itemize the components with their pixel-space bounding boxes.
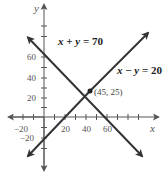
line-x-plus-y-70-start xyxy=(28,38,42,53)
tick-y-20: 20 xyxy=(27,93,37,103)
intersection-point xyxy=(88,89,93,94)
line-x-minus-y-20-start xyxy=(28,91,90,156)
equation-x-minus-y-20: x − y = 20 xyxy=(116,64,162,76)
tick-y-60: 60 xyxy=(27,52,37,62)
x-axis-label: x xyxy=(149,122,155,134)
tick-x-60: 60 xyxy=(103,124,113,134)
tick-x-40: 40 xyxy=(82,124,92,134)
intersection-label: (45, 25) xyxy=(94,87,123,97)
y-axis-label: y xyxy=(33,2,39,14)
equation-x-plus-y-70: x + y = 70 xyxy=(57,35,103,47)
tick-y-40: 40 xyxy=(27,73,37,83)
graph: −20 20 40 60 60 40 20 −20 y x (45, 25) x… xyxy=(0,0,163,173)
tick-y-neg20: −20 xyxy=(20,133,35,143)
tick-x-20: 20 xyxy=(61,124,71,134)
